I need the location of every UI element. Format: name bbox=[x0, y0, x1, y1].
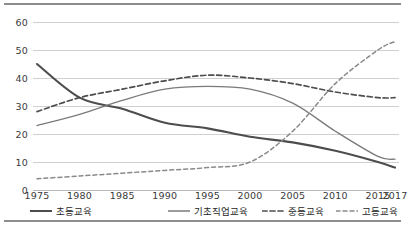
y-axis-tick-label: 30 bbox=[16, 101, 29, 112]
x-axis-tick-label: 1990 bbox=[152, 190, 177, 201]
legend-label: 기초직업교육 bbox=[194, 204, 249, 218]
series-lines bbox=[33, 8, 399, 190]
legend-label: 중등교육 bbox=[288, 204, 324, 218]
plot-area-wrapper: 0102030405060 bbox=[0, 8, 405, 190]
figure-bottom-rule bbox=[4, 220, 401, 222]
chart-legend: 초등교육기초직업교육중등교육고등교육 bbox=[0, 203, 405, 219]
y-axis-tick-labels: 0102030405060 bbox=[0, 8, 30, 190]
y-axis-tick-label: 10 bbox=[16, 157, 29, 168]
legend-item[interactable]: 기초직업교육 bbox=[168, 203, 249, 219]
legend-item[interactable]: 초등교육 bbox=[30, 203, 92, 219]
x-axis-tick-label: 2005 bbox=[280, 190, 305, 201]
legend-swatch-icon bbox=[168, 206, 190, 216]
series-line bbox=[37, 64, 395, 168]
series-line bbox=[37, 75, 395, 111]
figure-top-rule bbox=[4, 3, 401, 5]
x-axis-tick-labels: 1975198019851990199520002005201020152017 bbox=[33, 190, 399, 204]
legend-swatch-icon bbox=[262, 206, 284, 216]
x-axis-tick-label: 1975 bbox=[25, 190, 50, 201]
series-line bbox=[37, 86, 395, 159]
legend-swatch-icon bbox=[30, 206, 52, 216]
y-axis-tick-label: 60 bbox=[16, 17, 29, 28]
legend-item[interactable]: 중등교육 bbox=[262, 203, 324, 219]
x-axis-tick-label: 2000 bbox=[238, 190, 263, 201]
y-axis-tick-label: 20 bbox=[16, 129, 29, 140]
x-axis-tick-label: 1995 bbox=[195, 190, 220, 201]
y-axis-tick-label: 50 bbox=[16, 45, 29, 56]
legend-item[interactable]: 고등교육 bbox=[336, 203, 398, 219]
plot-area bbox=[33, 8, 399, 190]
legend-swatch-icon bbox=[336, 206, 358, 216]
y-axis-tick-label: 40 bbox=[16, 73, 29, 84]
legend-label: 초등교육 bbox=[56, 204, 92, 218]
x-axis-tick-label: 1980 bbox=[67, 190, 92, 201]
x-axis-tick-label: 1985 bbox=[110, 190, 135, 201]
legend-label: 고등교육 bbox=[362, 204, 398, 218]
x-axis-tick-label: 2010 bbox=[323, 190, 348, 201]
x-axis-tick-label: 2017 bbox=[383, 190, 408, 201]
